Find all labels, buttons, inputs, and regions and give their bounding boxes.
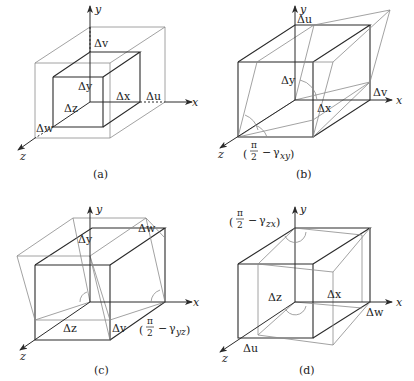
deformed-box-outline <box>238 10 390 137</box>
paren-close: ) <box>290 148 294 161</box>
gamma-symbol: γ <box>169 322 176 335</box>
paren-open: ( <box>243 148 247 161</box>
label-du: Δu <box>297 13 312 26</box>
angle-label-zx: ( π 2 − γ zx ) <box>229 208 280 230</box>
paren-open: ( <box>229 216 233 229</box>
caption-c: (c) <box>94 364 109 377</box>
label-du: Δu <box>146 90 161 103</box>
two-symbol: 2 <box>251 152 257 162</box>
minus-symbol: − <box>262 146 271 159</box>
y-axis-label: y <box>94 3 102 16</box>
gamma-subscript: yz <box>175 327 186 337</box>
label-dw: Δw <box>366 306 384 319</box>
panel-c: y x z Δw Δy Δz Δv ( π 2 − γ yz ) (c) <box>17 203 200 377</box>
panel-a: y x z Δv Δy Δx Δu Δz Δw (a) <box>18 3 199 181</box>
pi-symbol: π <box>251 140 257 150</box>
label-dy: Δy <box>281 74 296 87</box>
panel-b: y x z Δu Δy Δx Δv ( π 2 − γ xy ) (b) <box>217 3 403 181</box>
label-dw: Δw <box>138 222 156 235</box>
label-dv: Δv <box>94 37 109 50</box>
angle-arc-yz <box>80 292 87 302</box>
caption-a: (a) <box>93 168 108 181</box>
label-dy: Δy <box>78 233 93 246</box>
label-dz: Δz <box>63 322 77 335</box>
label-dv: Δv <box>373 86 388 99</box>
label-dv: Δv <box>112 322 127 335</box>
x-axis-label: x <box>396 94 403 107</box>
label-dx: Δx <box>327 288 342 301</box>
paren-open: ( <box>139 324 143 337</box>
pi-symbol: π <box>147 316 153 326</box>
x-axis-label: x <box>396 296 403 309</box>
label-dz: Δz <box>268 291 282 304</box>
label-dw: Δw <box>36 122 54 135</box>
original-box <box>35 228 165 340</box>
angle-label-yz: ( π 2 − γ yz ) <box>139 316 190 338</box>
caption-d: (d) <box>299 364 315 377</box>
minus-symbol: − <box>158 322 167 335</box>
y-axis-label: y <box>95 203 103 216</box>
paren-close: ) <box>186 324 190 337</box>
x-axis-label: x <box>193 296 200 309</box>
angle-arc-zx-bottom <box>285 306 306 315</box>
gamma-subscript: zx <box>265 219 276 229</box>
label-dx: Δx <box>116 90 131 103</box>
label-dy: Δy <box>78 80 93 93</box>
label-dz: Δz <box>64 102 78 115</box>
angle-arc-yz-right <box>151 290 160 302</box>
label-du: Δu <box>243 342 258 355</box>
gamma-symbol: γ <box>259 214 266 227</box>
deformed-box-outline <box>258 228 370 345</box>
strain-diagram: y x z Δv Δy Δx Δu Δz Δw (a) <box>0 0 414 381</box>
z-axis-label: z <box>19 150 26 163</box>
caption-b: (b) <box>296 168 312 181</box>
two-symbol: 2 <box>147 328 153 338</box>
z-axis-label: z <box>19 350 26 363</box>
panel-d: y x z Δx Δz Δw Δu ( π 2 − γ zx ) (d) <box>220 203 403 377</box>
minus-symbol: − <box>248 214 257 227</box>
y-axis-label: y <box>299 203 307 216</box>
gamma-symbol: γ <box>273 146 280 159</box>
pi-symbol: π <box>237 208 243 218</box>
two-symbol: 2 <box>237 220 243 230</box>
angle-label-xy: ( π 2 − γ xy ) <box>243 140 294 162</box>
x-axis-label: x <box>192 96 199 109</box>
z-axis-label: z <box>217 148 224 161</box>
paren-close: ) <box>276 216 280 229</box>
label-dx: Δx <box>317 102 332 115</box>
z-axis-label: z <box>221 352 228 365</box>
